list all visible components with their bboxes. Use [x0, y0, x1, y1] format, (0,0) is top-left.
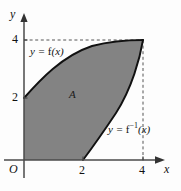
curve-label-finv-lhs: y =	[108, 123, 126, 135]
curve-label-f: y = f(x)	[30, 46, 64, 57]
x-tick-label-2: 2	[79, 164, 85, 176]
y-tick-label-2: 2	[12, 91, 18, 103]
curve-label-f-lhs: y =	[30, 45, 48, 57]
y-axis-arrowhead	[20, 13, 27, 22]
region-label-A: A	[69, 89, 76, 100]
x-axis-label: x	[164, 163, 169, 175]
x-tick-label-4: 4	[139, 164, 145, 176]
curve-label-finv-arg: (x)	[138, 123, 150, 135]
figure-container: y x O 4 2 2 4 y = f(x) y = f−1(x) A	[0, 0, 181, 191]
origin-label: O	[9, 163, 18, 175]
y-tick-label-4: 4	[12, 33, 18, 45]
y-axis-label: y	[10, 8, 15, 20]
shaded-region-A	[24, 40, 143, 160]
curve-label-f-arg: (x)	[51, 45, 63, 57]
curve-label-finv-exp: −1	[129, 121, 138, 130]
plot-canvas	[0, 0, 181, 191]
curve-label-f-inverse: y = f−1(x)	[108, 122, 150, 135]
